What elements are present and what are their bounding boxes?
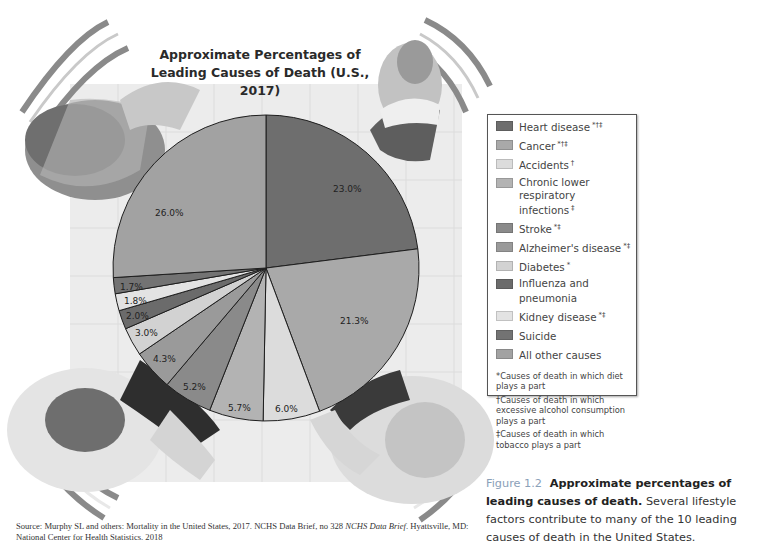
chart-title-line-1: Approximate Percentages of — [150, 46, 370, 64]
legend-label: Stroke — [519, 223, 552, 235]
table-scene-illustration: 23.0% 21.3% 6.0% 5.7% 5.2% 4.3% 3.0% 2.0… — [0, 0, 764, 554]
legend-marks: ‡ — [571, 204, 575, 212]
label-all-other: 26.0% — [155, 208, 184, 218]
person-top-right — [370, 40, 442, 161]
legend-swatch — [496, 178, 513, 188]
legend-label: Accidents — [519, 159, 569, 171]
legend-marks: *‡ — [598, 311, 605, 319]
label-heart-disease: 23.0% — [333, 184, 362, 194]
legend-marks: * — [567, 261, 571, 269]
legend-label: Chronic lower respiratory infections — [519, 176, 590, 216]
legend-item-accidents: Accidents† — [496, 157, 636, 172]
footnote-text: Causes of death in which tobacco plays a… — [496, 429, 604, 450]
legend-label: Suicide — [519, 331, 556, 343]
legend-item-all-other: All other causes — [496, 347, 636, 362]
source-italic: NCHS Data Brief — [345, 521, 406, 531]
label-diabetes: 3.0% — [135, 328, 158, 338]
label-chronic-lower-respiratory: 5.7% — [228, 403, 251, 413]
legend-swatch — [496, 349, 513, 359]
pie-chart — [113, 115, 419, 421]
legend-marks: *‡ — [623, 242, 630, 250]
legend-item-heart-disease: Heart disease*†‡ — [496, 119, 636, 134]
legend-label: Alzheimer's disease — [519, 242, 621, 254]
legend-marks: *†‡ — [557, 140, 568, 148]
legend-item-stroke: Stroke*‡ — [496, 221, 636, 236]
legend-marks: *‡ — [554, 223, 561, 231]
legend-item-kidney-disease: Kidney disease*‡ — [496, 309, 636, 324]
label-alzheimers: 4.3% — [153, 354, 176, 364]
legend-marks: † — [571, 159, 575, 167]
label-influenza-pneumonia: 2.0% — [126, 311, 149, 321]
legend-swatch — [496, 140, 513, 150]
label-accidents: 6.0% — [275, 404, 298, 414]
legend-label: Diabetes — [519, 261, 565, 273]
illustration-scene: 23.0% 21.3% 6.0% 5.7% 5.2% 4.3% 3.0% 2.0… — [0, 0, 764, 554]
legend-label: Influenza and pneumonia — [519, 277, 589, 304]
legend-item-suicide: Suicide — [496, 328, 636, 343]
label-stroke: 5.2% — [183, 382, 206, 392]
legend-marks: *†‡ — [592, 121, 603, 129]
chart-title: Approximate Percentages of Leading Cause… — [150, 46, 370, 100]
legend-item-chronic-lower-respiratory: Chronic lower respiratory infections‡ — [496, 176, 636, 217]
footnote-text: Causes of death in which excessive alcoh… — [496, 395, 625, 426]
label-kidney-disease: 1.8% — [124, 296, 147, 306]
legend-swatch — [496, 330, 513, 340]
legend-swatch — [496, 121, 513, 131]
legend-item-influenza-pneumonia: Influenza and pneumonia — [496, 277, 636, 305]
source-citation: Source: Murphy SL and others: Mortality … — [16, 521, 486, 543]
legend-swatch — [496, 311, 513, 321]
footnote-text: Causes of death in which diet plays a pa… — [496, 371, 623, 392]
legend-item-cancer: Cancer*†‡ — [496, 138, 636, 153]
legend-swatch — [496, 261, 513, 271]
legend-swatch — [496, 223, 513, 233]
footnote-tobacco: ‡Causes of death in which tobacco plays … — [496, 429, 636, 450]
legend-label: Kidney disease — [519, 312, 596, 324]
legend-item-diabetes: Diabetes* — [496, 259, 636, 274]
legend-swatch — [496, 159, 513, 169]
label-cancer: 21.3% — [340, 316, 369, 326]
legend-label: Cancer — [519, 140, 555, 152]
footnote-diet: *Causes of death in which diet plays a p… — [496, 371, 636, 392]
legend-label: All other causes — [519, 350, 601, 362]
source-text: Source: Murphy SL and others: Mortality … — [16, 521, 345, 531]
label-suicide: 1.7% — [120, 282, 143, 292]
footnote-alcohol: †Causes of death in which excessive alco… — [496, 395, 636, 427]
legend-swatch — [496, 242, 513, 252]
legend-footnotes: *Causes of death in which diet plays a p… — [496, 371, 636, 451]
chart-title-line-2: Leading Causes of Death (U.S., 2017) — [150, 64, 370, 100]
legend-swatch — [496, 279, 513, 289]
legend: Heart disease*†‡ Cancer*†‡ Accidents† Ch… — [487, 114, 637, 396]
figure-number: Figure 1.2 — [486, 477, 542, 490]
legend-item-alzheimers: Alzheimer's disease*‡ — [496, 240, 636, 255]
figure-caption: Figure 1.2 Approximate percentages of le… — [486, 475, 764, 547]
legend-label: Heart disease — [519, 121, 590, 133]
